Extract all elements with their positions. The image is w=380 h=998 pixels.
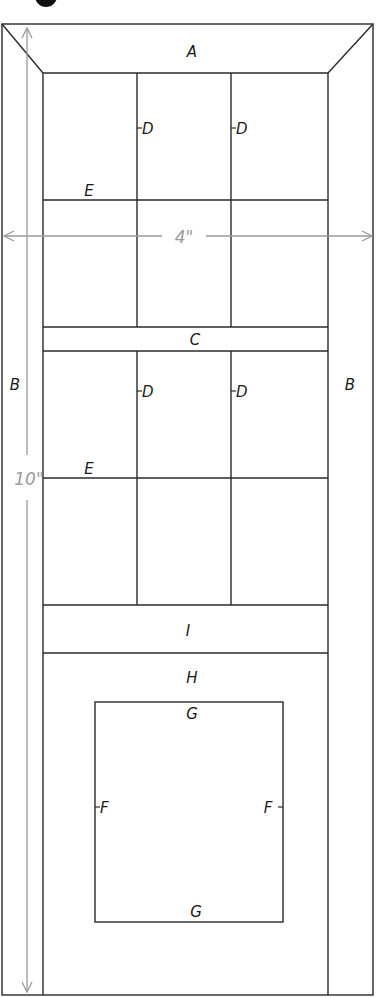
label-upper-muntin-left: D bbox=[142, 120, 154, 138]
door-diagram: 4" 10" A B B C D D D D E E I H G G F F bbox=[0, 0, 380, 998]
label-upper-muntin-right: D bbox=[236, 120, 248, 138]
label-lower-muntin-left: D bbox=[142, 383, 154, 401]
label-lower-muntin-right: D bbox=[236, 383, 248, 401]
label-panel-bottom-trim: G bbox=[190, 903, 202, 921]
width-dimension-label: 4" bbox=[175, 227, 194, 247]
bevel-right bbox=[328, 24, 373, 73]
label-lower-rail: I bbox=[186, 622, 191, 640]
label-panel-top-trim: G bbox=[186, 705, 198, 723]
label-upper-cross-muntin: E bbox=[84, 182, 94, 200]
inner-panel bbox=[95, 702, 283, 922]
label-bottom-panel: H bbox=[186, 669, 197, 687]
label-left-stile: B bbox=[10, 376, 20, 394]
label-lower-cross-muntin: E bbox=[84, 460, 94, 478]
label-top-rail: A bbox=[186, 43, 197, 61]
label-right-stile: B bbox=[345, 376, 355, 394]
bevel-left bbox=[2, 24, 43, 73]
label-panel-right-trim: F bbox=[264, 799, 273, 817]
label-middle-rail: C bbox=[190, 331, 201, 349]
height-dimension-label: 10" bbox=[14, 469, 43, 489]
step-badge-icon bbox=[35, 0, 57, 7]
outer-frame bbox=[2, 24, 373, 995]
label-panel-left-trim: F bbox=[100, 799, 109, 817]
